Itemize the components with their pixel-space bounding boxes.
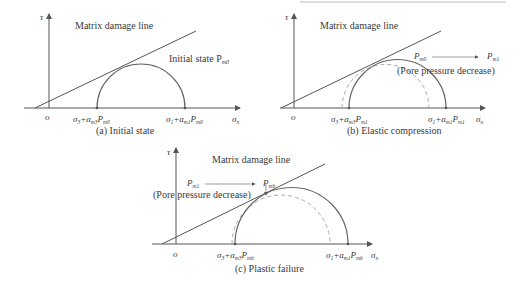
matrix-damage-line-label: Matrix damage line [320, 20, 399, 31]
tau-label: τ [285, 12, 289, 22]
sigma-n-label: σn [476, 114, 483, 125]
tau-label: τ [167, 147, 171, 157]
right-point-label: σ1+am1Pmb [326, 250, 363, 261]
pore-pressure-note: (Pore pressure decrease) [153, 189, 251, 201]
left-point-label: σ3+am3Pm0 [73, 114, 110, 125]
matrix-damage-line-label: Matrix damage line [212, 154, 291, 165]
matrix-damage-line [162, 164, 325, 244]
caption-b: (b) Elastic compression [347, 125, 441, 137]
initial-state-label: Initial state Pm0 [169, 53, 229, 65]
origin-label: o [291, 112, 296, 122]
arrow-from-label: Pm1 [186, 178, 199, 189]
origin-label: o [173, 249, 178, 259]
pore-pressure-note: (Pore pressure decrease) [397, 65, 495, 77]
sigma-n-label: σn [371, 250, 378, 261]
panel-b: τ o Matrix damage line Pm0 Pm1 (Pore pre… [280, 12, 499, 137]
right-point-label: σ1+am1Pm0 [166, 114, 203, 125]
right-point-label: σ1+am1Pm1 [428, 114, 465, 125]
arrow-to-label: Pmb [262, 178, 275, 189]
arrow-from-label: Pm0 [413, 51, 426, 62]
tau-label: τ [40, 12, 44, 22]
caption-c: (c) Plastic failure [235, 263, 304, 275]
matrix-damage-line-label: Matrix damage line [75, 20, 154, 31]
caption-a: (a) Initial state [96, 125, 155, 137]
left-point-label: σ3+am3Pm1 [331, 114, 368, 125]
left-point-label: σ3+am3Pmb [217, 250, 254, 261]
panel-a: τ o Matrix damage line Initial state Pm0… [24, 12, 240, 137]
mohr-circle-initial [97, 64, 185, 108]
panel-c: τ o Matrix damage line Pm1 Pmb (Pore pre… [152, 147, 378, 275]
arrow-to-label: Pm1 [486, 51, 499, 62]
sigma-n-label: σn [232, 114, 239, 125]
matrix-damage-line [35, 31, 196, 108]
origin-label: o [45, 112, 50, 122]
mohr-circle-diagram: τ o Matrix damage line Initial state Pm0… [0, 0, 530, 286]
